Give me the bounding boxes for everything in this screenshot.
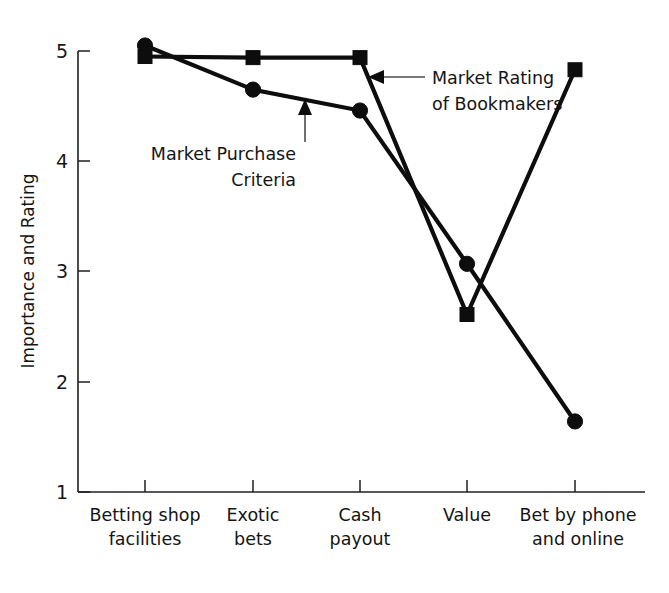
x-category-label-1-line1: Betting shop: [89, 505, 200, 525]
annot-market-purchase-line2: Criteria: [231, 170, 296, 190]
data-point-s2-1: [138, 50, 152, 64]
y-tick-label-3: 3: [56, 260, 68, 282]
annot-market-rating-line1: Market Rating: [432, 68, 554, 88]
y-axis-tick-labels: 5 4 3 2 1: [56, 40, 68, 503]
y-axis-ticks: [78, 51, 90, 492]
data-point-s1-5: [567, 414, 582, 429]
line-chart: 5 4 3 2 1 Importance and Rating Betting …: [0, 0, 669, 593]
annot-market-rating-line2: of Bookmakers: [432, 94, 562, 114]
data-point-s1-4: [459, 256, 474, 271]
x-category-label-2-line2: bets: [234, 529, 272, 549]
y-tick-label-4: 4: [56, 150, 68, 172]
x-axis-category-labels: Betting shop facilities Exotic bets Cash…: [89, 505, 636, 549]
data-point-s2-3: [353, 51, 367, 65]
y-axis-title: Importance and Rating: [18, 173, 38, 368]
x-category-label-5-line2: and online: [532, 529, 624, 549]
x-category-label-2-line1: Exotic: [227, 505, 280, 525]
y-tick-label-2: 2: [56, 371, 68, 393]
x-category-label-5-line1: Bet by phone: [520, 505, 637, 525]
data-point-s2-4: [460, 307, 474, 321]
annot-market-rating-bookmakers: Market Rating of Bookmakers: [368, 68, 562, 114]
y-tick-label-5: 5: [56, 40, 68, 62]
data-point-s1-2: [245, 82, 260, 97]
x-category-label-3-line1: Cash: [338, 505, 381, 525]
annot-market-purchase-criteria: Market Purchase Criteria: [151, 99, 312, 190]
data-point-s2-2: [246, 51, 260, 65]
x-category-label-3-line2: payout: [330, 529, 391, 549]
annot-market-purchase-line1: Market Purchase: [151, 144, 296, 164]
data-point-s2-5: [568, 63, 582, 77]
data-point-s1-3: [352, 103, 367, 118]
x-category-label-1-line2: facilities: [109, 529, 182, 549]
x-axis-ticks: [145, 480, 575, 492]
y-tick-label-1: 1: [56, 481, 68, 503]
chart-container: 5 4 3 2 1 Importance and Rating Betting …: [0, 0, 669, 593]
x-category-label-4-line1: Value: [443, 505, 491, 525]
